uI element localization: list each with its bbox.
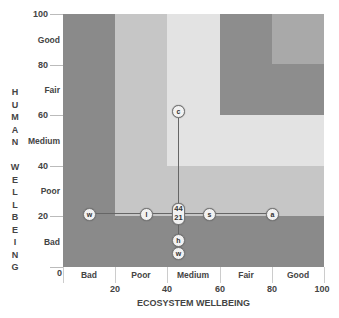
y-tick-0: 0 bbox=[22, 268, 62, 278]
summary-point-human-value: 21 bbox=[173, 213, 184, 222]
x-tick-60: 60 bbox=[205, 284, 235, 294]
summary-point-ecosystem-value: 44 bbox=[173, 204, 184, 213]
y-tick-line bbox=[50, 14, 63, 15]
x-category-poor: Poor bbox=[115, 270, 167, 280]
data-point-l: l bbox=[140, 208, 153, 221]
x-tick-80: 80 bbox=[257, 284, 287, 294]
y-tick-line bbox=[50, 216, 63, 217]
data-point-h: h bbox=[172, 234, 185, 247]
x-tick-100: 100 bbox=[307, 284, 337, 294]
y-tick-100: 100 bbox=[8, 9, 48, 19]
x-category-good: Good bbox=[272, 270, 324, 280]
data-point-a: a bbox=[266, 208, 279, 221]
x-category-bad: Bad bbox=[63, 270, 115, 280]
y-tick-80: 80 bbox=[8, 60, 48, 70]
y-axis-title: H U M A N W E L L B E I N G bbox=[8, 86, 22, 274]
summary-point: 44 21 bbox=[172, 203, 185, 225]
vertical-connector bbox=[178, 111, 179, 253]
x-category-medium: Medium bbox=[167, 270, 219, 280]
plot-area bbox=[63, 14, 324, 267]
data-point-s: s bbox=[203, 208, 216, 221]
y-tick-line bbox=[50, 267, 63, 268]
y-category-good: Good bbox=[10, 35, 60, 45]
data-point-c: c bbox=[172, 105, 185, 118]
region-good bbox=[272, 14, 324, 64]
x-tick-line bbox=[324, 267, 325, 283]
x-tick-20: 20 bbox=[100, 284, 130, 294]
data-point-w-horizontal: w bbox=[83, 208, 96, 221]
y-tick-line bbox=[50, 115, 63, 116]
y-tick-line bbox=[50, 65, 63, 66]
x-category-fair: Fair bbox=[220, 270, 272, 280]
x-axis-title: ECOSYSTEM WELLBEING bbox=[63, 298, 324, 308]
x-tick-40: 40 bbox=[152, 284, 182, 294]
data-point-w-vertical: w bbox=[172, 247, 185, 260]
y-tick-line bbox=[50, 166, 63, 167]
